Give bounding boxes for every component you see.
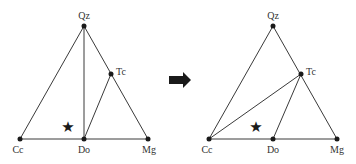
label-cc: Cc bbox=[201, 144, 213, 155]
tie-line-do-tc bbox=[84, 74, 111, 139]
node-mg bbox=[146, 137, 151, 142]
triangle-outline bbox=[209, 26, 337, 139]
node-qz bbox=[82, 24, 87, 29]
star-icon: ★ bbox=[61, 118, 74, 136]
label-do: Do bbox=[267, 144, 279, 155]
node-qz bbox=[271, 24, 276, 29]
star-icon: ★ bbox=[249, 118, 262, 136]
ternary-diagram-before: Qz Tc Cc Do Mg ★ bbox=[12, 10, 156, 155]
phase-diagram-canvas: Qz Tc Cc Do Mg ★ Qz Tc Cc Do Mg ★ bbox=[0, 0, 356, 164]
ternary-diagram-after: Qz Tc Cc Do Mg ★ bbox=[201, 10, 344, 155]
label-tc: Tc bbox=[116, 66, 126, 77]
right-arrow-icon bbox=[169, 72, 191, 88]
node-do bbox=[82, 137, 87, 142]
label-do: Do bbox=[78, 144, 90, 155]
node-tc bbox=[109, 72, 114, 77]
node-tc bbox=[299, 72, 304, 77]
label-cc: Cc bbox=[12, 144, 24, 155]
node-cc bbox=[207, 137, 212, 142]
label-qz: Qz bbox=[267, 10, 279, 21]
node-mg bbox=[335, 137, 340, 142]
node-cc bbox=[18, 137, 23, 142]
label-mg: Mg bbox=[330, 144, 344, 155]
label-tc: Tc bbox=[306, 66, 316, 77]
node-do bbox=[271, 137, 276, 142]
label-mg: Mg bbox=[142, 144, 156, 155]
label-qz: Qz bbox=[78, 10, 90, 21]
